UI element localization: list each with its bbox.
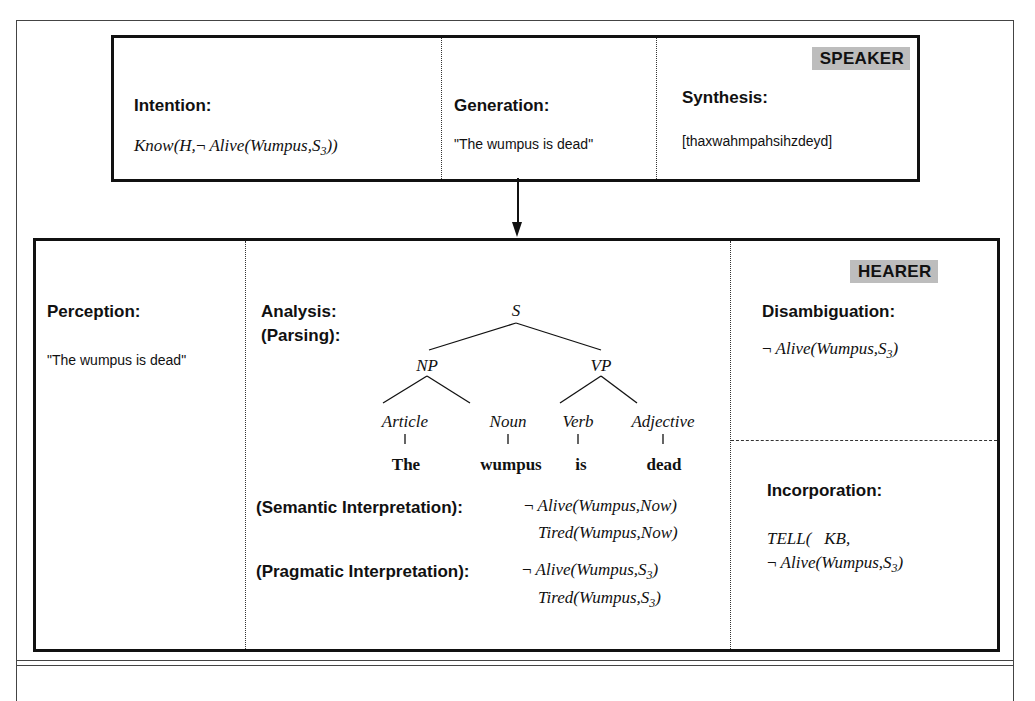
tree-word-dead: dead [647, 455, 682, 475]
speaker-divider-1 [441, 38, 442, 179]
intention-expression: Know(H,¬Alive(Wumpus,S3)) [134, 136, 338, 159]
semantic-expression-1: ¬Alive(Wumpus,Now) [524, 496, 677, 516]
tree-node-noun: Noun [490, 412, 527, 432]
incorporation-expression-2: ¬Alive(Wumpus,S3) [767, 553, 903, 576]
pragmatic-interpretation-heading: (Pragmatic Interpretation): [256, 562, 469, 582]
speaker-box: SPEAKER Intention: Know(H,¬Alive(Wumpus,… [111, 35, 920, 182]
tree-node-article: Article [382, 412, 428, 432]
generation-heading: Generation: [454, 96, 549, 116]
incorporation-heading: Incorporation: [767, 481, 882, 501]
flow-arrow-line [517, 178, 519, 226]
tree-word-wumpus: wumpus [480, 455, 541, 475]
generation-text: "The wumpus is dead" [454, 136, 593, 152]
flow-arrow-head-icon [512, 222, 522, 237]
speaker-badge: SPEAKER [812, 47, 910, 70]
hearer-box: HEARER Perception: "The wumpus is dead" … [33, 238, 1000, 652]
tree-node-adjective: Adjective [631, 412, 694, 432]
pragmatic-expression-2: Tired(Wumpus,S3) [538, 588, 661, 611]
pragmatic-expression-1: ¬Alive(Wumpus,S3) [522, 560, 658, 583]
disambiguation-expression: ¬Alive(Wumpus,S3) [762, 339, 898, 362]
semantic-interpretation-heading: (Semantic Interpretation): [256, 498, 463, 518]
disambiguation-heading: Disambiguation: [762, 302, 895, 322]
incorporation-expression-1: TELL( KB, [767, 529, 850, 549]
speaker-divider-2 [656, 38, 657, 179]
synthesis-text: [thaxwahmpahsihzdeyd] [682, 133, 832, 149]
intention-heading: Intention: [134, 96, 211, 116]
synthesis-heading: Synthesis: [682, 88, 768, 108]
tree-word-the: The [392, 455, 420, 475]
tree-node-vp: VP [591, 356, 612, 376]
tree-node-s: S [512, 301, 521, 321]
tree-node-np: NP [416, 356, 438, 376]
tree-word-is: is [575, 455, 586, 475]
semantic-expression-2: Tired(Wumpus,Now) [538, 523, 678, 543]
footer-rule [16, 660, 1014, 666]
tree-node-verb: Verb [562, 412, 593, 432]
